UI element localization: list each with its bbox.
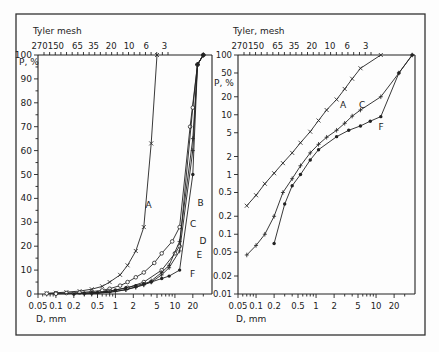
- x-tick-label: 0.5: [91, 301, 105, 311]
- y-tick-label: 0: [26, 289, 32, 299]
- mesh-tick-label: 150: [248, 41, 264, 51]
- top-axis-label: Tyler, mesh: [232, 26, 285, 36]
- y-tick-label: 50: [21, 170, 33, 180]
- y-tick-label: 0.01: [213, 289, 232, 299]
- top-ticks: 2701506535201063: [231, 41, 371, 55]
- top-axis-label: Tyler mesh: [32, 26, 82, 36]
- y-tick-label: 0.2: [218, 211, 232, 221]
- y-tick-label: 1: [227, 170, 232, 180]
- series-label-C: C: [359, 100, 365, 110]
- series-A: A: [245, 53, 383, 208]
- x-tick-label: 1: [313, 301, 318, 311]
- x-tick-label: 0.5: [291, 301, 305, 311]
- x-axis-label: D, mm: [236, 314, 266, 324]
- series-C: C: [54, 53, 205, 295]
- x-tick-label: 20: [389, 301, 400, 311]
- top-ticks: 2701506535201063: [31, 41, 168, 55]
- y-tick-label: 20: [21, 241, 33, 251]
- y-tick-label: 0.5: [218, 187, 232, 197]
- y-ticks: 0102030405060708090100: [15, 50, 38, 299]
- figure: 0.050.10.20.51251020D, mm270150653520106…: [0, 0, 439, 352]
- y-tick-label: 2: [227, 152, 232, 162]
- mesh-tick-label: 35: [88, 41, 99, 51]
- x-tick-label: 0.2: [267, 301, 281, 311]
- series-A: A: [45, 53, 159, 295]
- y-tick-label: 20: [221, 92, 232, 102]
- x-tick-label: 0.2: [67, 301, 81, 311]
- y-axis-label: P, %: [19, 57, 39, 67]
- x-tick-label: 2: [131, 301, 136, 311]
- y-tick-label: 5: [227, 128, 232, 138]
- x-axis-label: D, mm: [36, 314, 66, 324]
- y-tick-label: 40: [21, 193, 33, 203]
- y-tick-label: 0.05: [213, 247, 232, 257]
- y-tick-label: 0.1: [218, 229, 232, 239]
- x-tick-label: 0.1: [49, 301, 63, 311]
- x-tick-label: 0.05: [29, 301, 48, 311]
- figure-frame: [16, 14, 425, 335]
- series-D: D: [82, 53, 206, 296]
- y-tick-label: 50: [221, 68, 232, 78]
- series-label-F: F: [190, 269, 195, 279]
- mesh-tick-label: 270: [31, 41, 47, 51]
- y-tick-label: 0.02: [213, 271, 232, 281]
- series-label-F: F: [379, 122, 384, 132]
- y-tick-label: 90: [21, 74, 33, 84]
- mesh-tick-label: 150: [48, 41, 64, 51]
- y-axis-label: P, %: [214, 78, 234, 88]
- mesh-tick-label: 3: [162, 41, 167, 51]
- left-chart: 0.050.10.20.51251020D, mm270150653520106…: [15, 26, 212, 324]
- series-label-C: C: [190, 219, 196, 229]
- series-label-D: D: [200, 236, 207, 246]
- series-label-A: A: [145, 200, 152, 210]
- y-tick-label: 30: [21, 217, 33, 227]
- y-tick-label: 80: [21, 98, 33, 108]
- y-tick-label: 60: [21, 146, 33, 156]
- y-tick-label: 10: [221, 110, 232, 120]
- mesh-tick-label: 65: [72, 41, 83, 51]
- mesh-tick-label: 65: [272, 41, 283, 51]
- series-C: C: [245, 53, 414, 258]
- mesh-tick-label: 10: [324, 41, 335, 51]
- x-ticks: 0.050.10.20.51251020: [229, 294, 405, 311]
- mesh-tick-label: 20: [306, 41, 317, 51]
- y-tick-label: 10: [21, 265, 33, 275]
- x-tick-label: 0.1: [249, 301, 263, 311]
- mesh-tick-label: 6: [344, 41, 349, 51]
- x-ticks: 0.050.10.20.51251020: [29, 294, 204, 311]
- mesh-tick-label: 35: [289, 41, 300, 51]
- right-chart: 0.050.10.20.51251020D, mm270150653520106…: [213, 26, 415, 324]
- x-tick-label: 10: [169, 301, 180, 311]
- mesh-tick-label: 3: [363, 41, 368, 51]
- series-F: F: [272, 53, 413, 245]
- mesh-tick-label: 6: [144, 41, 149, 51]
- x-tick-label: 5: [355, 301, 360, 311]
- x-tick-label: 0.05: [229, 301, 248, 311]
- series-label-E: E: [196, 250, 202, 260]
- x-tick-label: 1: [113, 301, 118, 311]
- series-label-B: B: [198, 198, 204, 208]
- x-tick-label: 20: [187, 301, 198, 311]
- mesh-tick-label: 270: [231, 41, 247, 51]
- y-tick-label: 100: [216, 50, 232, 60]
- x-tick-label: 10: [371, 301, 382, 311]
- mesh-tick-label: 20: [106, 41, 117, 51]
- mesh-tick-label: 10: [124, 41, 135, 51]
- x-tick-label: 2: [331, 301, 336, 311]
- y-tick-label: 70: [21, 122, 33, 132]
- x-tick-label: 5: [154, 301, 159, 311]
- series-label-A: A: [340, 100, 347, 110]
